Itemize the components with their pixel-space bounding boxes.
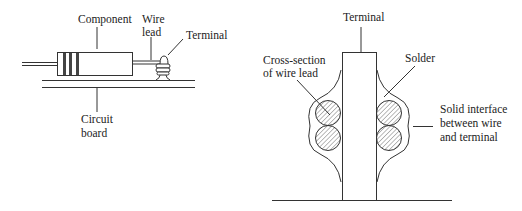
terminal-coil	[156, 56, 170, 80]
cross-section-leader	[297, 80, 330, 115]
left-wire-lead	[22, 63, 57, 66]
label-solid-interface-line3: and terminal	[440, 131, 498, 144]
label-circuit-board-line1: Circuit	[81, 113, 113, 126]
terminal-post	[343, 53, 377, 201]
label-terminal-left: Terminal	[186, 29, 227, 42]
label-wire-lead-line2: lead	[142, 26, 161, 39]
solder-leader	[384, 66, 415, 97]
label-wire-lead-line1: Wire	[142, 13, 165, 26]
label-solid-interface-line2: between wire	[440, 117, 502, 130]
circuit-board	[42, 81, 195, 88]
terminal-leader	[168, 39, 183, 55]
component-body	[58, 53, 133, 76]
label-cross-section-line1: Cross-section	[263, 54, 326, 67]
label-solder: Solder	[405, 52, 435, 65]
label-component: Component	[78, 13, 132, 26]
label-terminal-right: Terminal	[343, 11, 384, 24]
label-solid-interface-line1: Solid interface	[440, 103, 507, 116]
left-diagram	[22, 27, 195, 112]
component-bands	[63, 53, 79, 75]
label-cross-section-line2: of wire lead	[263, 67, 318, 80]
label-circuit-board-line2: board	[81, 127, 107, 140]
